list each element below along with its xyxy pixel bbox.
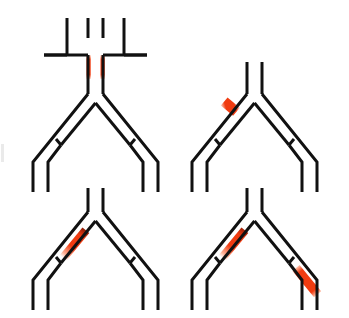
inner-wall-left-lower (48, 145, 61, 192)
left-tap-spur (215, 139, 220, 145)
inner-wall-left-lower (207, 145, 220, 192)
panel-top-right (178, 62, 348, 198)
left-tap-spur (56, 257, 61, 263)
panel-top-left (4, 2, 180, 198)
inner-wall-left-upper (220, 221, 255, 263)
panel-1-walls (33, 18, 158, 192)
left-tap-spur (215, 257, 220, 263)
inner-wall-left-lower (207, 263, 220, 310)
panel-bottom-right (178, 188, 348, 316)
inner-wall-right-lower (130, 145, 143, 192)
panel-4-walls (192, 188, 317, 310)
panel-3-svg (4, 188, 180, 316)
right-tap-spur (289, 257, 294, 263)
inner-wall-left-upper (61, 221, 96, 263)
inner-wall-left-lower (48, 263, 61, 310)
panel-3-walls (33, 188, 158, 310)
right-tap-spur (289, 139, 294, 145)
inner-wall-right-upper (96, 221, 131, 263)
inner-wall-right-lower (130, 263, 143, 310)
inner-wall-right-upper (96, 103, 131, 145)
inner-wall-right-upper (255, 103, 290, 145)
panel-4-svg (178, 188, 348, 316)
panel-2-walls (192, 62, 317, 192)
right-tap-spur (130, 257, 135, 263)
inner-wall-right-lower (289, 145, 302, 192)
inner-wall-right-upper (255, 221, 290, 263)
figure-root (0, 0, 349, 318)
right-tap-spur (130, 139, 135, 145)
inner-wall-left-upper (61, 103, 96, 145)
panel-1-svg (4, 2, 180, 198)
panel-2-svg (178, 62, 348, 198)
panel-bottom-left (4, 188, 180, 316)
